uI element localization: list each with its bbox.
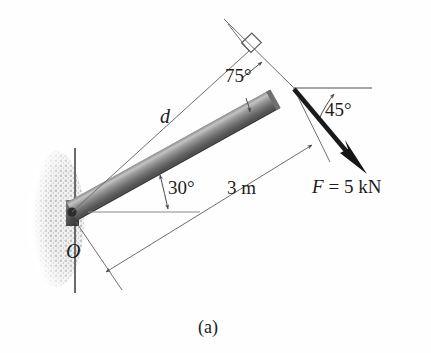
beam-bottom-edge (77, 108, 280, 220)
length-3m-label: 3 m (227, 178, 256, 197)
dim-extension-left (76, 222, 122, 290)
angle-30-label: 30° (168, 178, 195, 197)
pivot-label-O: O (66, 241, 80, 261)
beam (66, 89, 281, 226)
angle-75-label: 75° (225, 66, 252, 85)
figure-caption: (a) (198, 318, 218, 336)
force-value: = 5 kN (329, 176, 382, 197)
angle-45-label: 45° (325, 100, 352, 119)
force-symbol: F (312, 176, 324, 197)
figure-container: 30° 75° 45° 3 m d O F= 5 kN (a) (0, 0, 431, 353)
moment-arm-label-d: d (160, 106, 170, 126)
right-angle-marker (242, 33, 262, 52)
angle-30-arc (160, 175, 168, 209)
force-magnitude-label: F= 5 kN (312, 177, 382, 196)
beam-body (67, 90, 280, 221)
